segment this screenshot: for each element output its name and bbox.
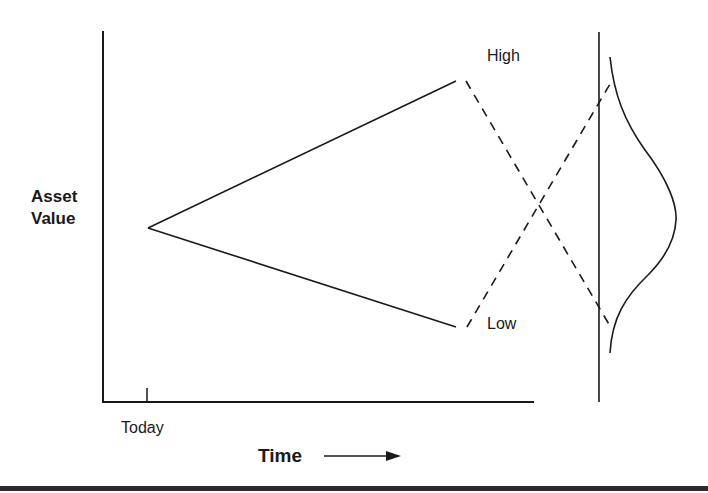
high-path-line bbox=[148, 81, 456, 228]
time-arrow-icon bbox=[386, 451, 401, 461]
dashed-high-to-low-line bbox=[466, 81, 610, 326]
bottom-rule bbox=[0, 486, 708, 491]
y-axis-label: Asset Value bbox=[31, 186, 77, 230]
low-label: Low bbox=[487, 315, 516, 333]
x-axis-label: Time bbox=[258, 445, 302, 467]
low-path-line bbox=[148, 228, 456, 327]
distribution-curve bbox=[610, 57, 676, 353]
y-axis-label-line2: Value bbox=[31, 208, 77, 230]
today-label: Today bbox=[121, 419, 164, 437]
y-axis-label-line1: Asset bbox=[31, 186, 77, 208]
high-label: High bbox=[487, 47, 520, 65]
diagram-canvas bbox=[0, 0, 708, 493]
